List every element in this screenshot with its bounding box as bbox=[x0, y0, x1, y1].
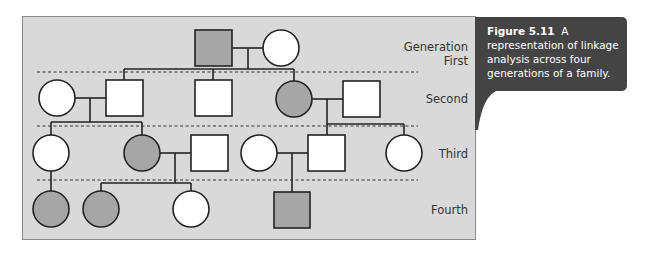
gen1-male-affected bbox=[195, 30, 232, 66]
generation-fourth-label: Fourth bbox=[431, 203, 468, 217]
gen3-female-1 bbox=[33, 135, 69, 171]
generation-first-label: First bbox=[444, 54, 468, 68]
gen3-female-married-in bbox=[241, 135, 277, 171]
figure-caption: Figure 5.11 A representation of linkage … bbox=[475, 17, 627, 91]
gen3-female-affected bbox=[124, 135, 160, 171]
gen4-male-affected bbox=[274, 192, 310, 228]
gen3-male-married-in bbox=[191, 135, 228, 171]
generation-heading: Generation bbox=[404, 40, 468, 54]
gen2-female-married-in bbox=[39, 80, 75, 116]
caption-number: Figure 5.11 bbox=[487, 25, 555, 37]
generation-second-label: Second bbox=[426, 92, 468, 106]
gen2-male-2 bbox=[195, 80, 232, 116]
figure: Generation First Second Third Fourth Fig… bbox=[0, 0, 648, 256]
generation-labels: Generation First Second Third Fourth bbox=[340, 0, 468, 256]
generation-third-label: Third bbox=[439, 147, 468, 161]
gen2-female-affected bbox=[276, 81, 312, 117]
gen4-female-affected-1 bbox=[33, 191, 69, 227]
caption-tail-shape bbox=[475, 90, 499, 130]
gen4-female-affected-2 bbox=[83, 191, 119, 227]
gen2-male-1 bbox=[106, 80, 143, 116]
gen1-female bbox=[263, 30, 299, 66]
gen4-female bbox=[173, 191, 209, 227]
